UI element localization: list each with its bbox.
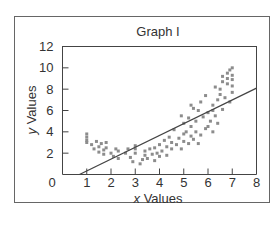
data-point — [221, 108, 224, 111]
data-point — [187, 116, 190, 119]
data-point — [90, 143, 93, 146]
data-point — [102, 153, 105, 156]
data-point — [141, 158, 144, 161]
data-point — [219, 88, 222, 91]
data-point — [194, 130, 197, 133]
scatter-chart: Graph I 24681012 12345678 x Values y Val… — [0, 0, 279, 230]
regression-line — [79, 88, 256, 174]
data-point — [177, 137, 180, 140]
data-point — [139, 162, 142, 165]
y-tick-label: 4 — [46, 124, 53, 139]
y-axis-ticks: 24681012 — [39, 39, 68, 161]
data-point — [190, 125, 193, 128]
x-tick-label: 3 — [132, 175, 139, 190]
x-axis-label: x Values — [133, 191, 183, 206]
data-point — [197, 109, 200, 112]
x-tick-label: 2 — [107, 175, 114, 190]
y-tick-label: 12 — [39, 39, 53, 54]
data-point — [231, 91, 234, 94]
chart-title: Graph I — [136, 24, 179, 39]
data-point — [226, 72, 229, 75]
data-point — [226, 77, 229, 80]
data-point — [148, 147, 151, 150]
data-point — [131, 160, 134, 163]
x-tick-label: 4 — [156, 175, 163, 190]
y-tick-label: 10 — [39, 60, 53, 75]
data-point — [192, 138, 195, 141]
data-point — [211, 104, 214, 107]
data-point — [165, 145, 168, 148]
data-point — [158, 143, 161, 146]
data-point — [190, 135, 193, 138]
data-point — [192, 107, 195, 110]
data-point — [221, 80, 224, 83]
data-point — [180, 114, 183, 117]
data-point — [93, 147, 96, 150]
data-point — [194, 120, 197, 123]
data-point — [207, 125, 210, 128]
data-point — [134, 152, 137, 155]
data-point — [231, 74, 234, 77]
data-point — [231, 84, 234, 87]
data-point — [216, 122, 219, 125]
data-point — [209, 120, 212, 123]
data-point — [117, 150, 120, 153]
data-point — [105, 146, 108, 149]
data-points — [85, 66, 234, 165]
data-point — [231, 66, 234, 69]
data-point — [146, 157, 149, 160]
data-point — [143, 154, 146, 157]
data-point — [202, 115, 205, 118]
data-point — [85, 132, 88, 135]
data-point — [187, 142, 190, 145]
x-tick-label: 1 — [83, 175, 90, 190]
y-tick-label: 2 — [46, 146, 53, 161]
data-point — [211, 130, 214, 133]
data-point — [204, 94, 207, 97]
data-point — [185, 130, 188, 133]
data-point — [95, 140, 98, 143]
data-point — [190, 104, 193, 107]
data-point — [170, 141, 173, 144]
data-point — [216, 98, 219, 101]
data-point — [163, 139, 166, 142]
data-point — [199, 100, 202, 103]
data-point — [153, 159, 156, 162]
data-point — [85, 141, 88, 144]
data-point — [143, 150, 146, 153]
data-point — [158, 155, 161, 158]
data-point — [221, 75, 224, 78]
data-point — [151, 153, 154, 156]
data-point — [153, 146, 156, 149]
data-point — [100, 142, 103, 145]
data-point — [223, 96, 226, 99]
data-point — [199, 134, 202, 137]
data-point — [180, 147, 183, 150]
x-tick-label: 6 — [204, 175, 211, 190]
x-tick-label: 7 — [229, 175, 236, 190]
origin-label: 0 — [48, 175, 55, 190]
data-point — [219, 93, 222, 96]
data-point — [165, 154, 168, 157]
x-axis-ticks: 12345678 — [83, 169, 260, 191]
x-tick-label: 8 — [253, 175, 260, 190]
y-axis-label: y Values — [24, 85, 39, 135]
data-point — [214, 114, 217, 117]
data-point — [156, 152, 159, 155]
data-point — [110, 152, 113, 155]
x-tick-label: 5 — [180, 175, 187, 190]
y-tick-label: 6 — [46, 103, 53, 118]
data-point — [105, 141, 108, 144]
data-point — [182, 140, 185, 143]
data-point — [117, 157, 120, 160]
data-point — [197, 142, 200, 145]
data-point — [226, 82, 229, 85]
data-point — [97, 145, 100, 148]
data-point — [97, 151, 100, 154]
data-point — [168, 136, 171, 139]
data-point — [175, 143, 178, 146]
data-point — [160, 150, 163, 153]
y-tick-label: 8 — [46, 82, 53, 97]
data-point — [129, 156, 132, 159]
data-point — [214, 86, 217, 89]
